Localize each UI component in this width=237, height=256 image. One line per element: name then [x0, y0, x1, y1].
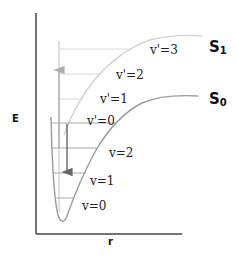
label-v-1: v=1 [89, 174, 114, 188]
s1-state [59, 35, 202, 135]
level-labels: v'=3 v'=2 v'=1 v'=0 v=2 v=1 v=0 [81, 43, 178, 213]
label-v-prime-1: v'=1 [99, 92, 128, 106]
s1-label: S1 [209, 38, 227, 56]
energy-diagram: v'=3 v'=2 v'=1 v'=0 v=2 v=1 v=0 S1 S0 E … [0, 0, 237, 256]
label-v-prime-3: v'=3 [149, 43, 178, 57]
label-v-prime-0: v'=0 [86, 114, 115, 128]
label-v-0: v=0 [81, 199, 106, 213]
label-v-prime-2: v'=2 [115, 68, 144, 82]
x-axis-label: r [108, 236, 113, 247]
s1-curve [59, 35, 202, 135]
s0-label: S0 [209, 90, 227, 108]
label-v-2: v=2 [108, 146, 133, 160]
transitions [59, 70, 67, 172]
y-axis-label: E [12, 113, 19, 124]
